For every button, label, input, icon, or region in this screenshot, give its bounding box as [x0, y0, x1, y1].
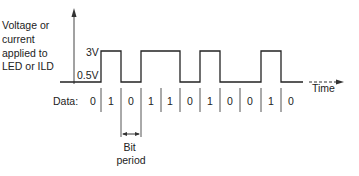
axis-arrow-icon [72, 8, 77, 17]
bit-0: 0 [90, 95, 96, 107]
bit-period-dimension [122, 132, 140, 136]
arrow-right-icon [135, 132, 140, 136]
bit-5: 0 [187, 95, 193, 107]
y-label-line-4: LED or ILD [2, 60, 54, 72]
data-label: Data: [53, 95, 78, 107]
low-level-label: 0.5V [77, 69, 99, 81]
arrow-left-icon [122, 132, 127, 136]
y-label-line-1: Voltage or [2, 19, 50, 31]
bit-9: 1 [268, 95, 274, 107]
bit-4: 1 [167, 95, 173, 107]
bit-6: 1 [207, 95, 213, 107]
bit-2: 0 [128, 95, 134, 107]
bit-period-line-2: period [116, 154, 145, 166]
bit-7: 0 [227, 95, 233, 107]
high-level-label: 3V [86, 46, 99, 58]
y-label-line-3: applied to [2, 47, 48, 59]
bit-1: 1 [108, 95, 114, 107]
bit-period-line-1: Bit [123, 141, 135, 153]
bit-period-label: Bit period [116, 141, 145, 166]
time-label: Time [312, 82, 335, 94]
nrz-waveform-diagram: Voltage or current applied to LED or ILD… [0, 0, 359, 176]
bit-10: 0 [288, 95, 294, 107]
bit-8: 0 [247, 95, 253, 107]
y-axis-label: Voltage or current applied to LED or ILD [2, 19, 54, 72]
y-axis [72, 8, 77, 84]
bit-3: 1 [148, 95, 154, 107]
y-label-line-2: current [2, 33, 35, 45]
arrow-right-icon [336, 80, 344, 85]
